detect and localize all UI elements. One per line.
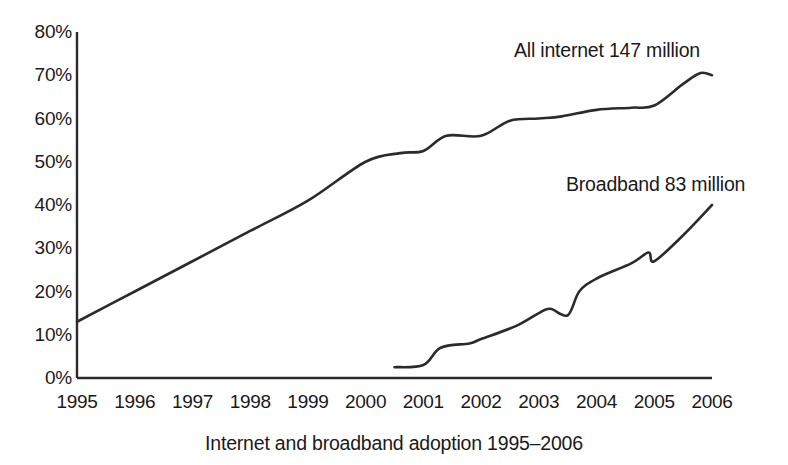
x-tick-label: 2003	[518, 392, 559, 412]
x-tick-label: 1998	[230, 392, 271, 412]
y-tick-label: 10%	[10, 325, 72, 344]
series-annotation-all-internet: All internet 147 million	[514, 40, 700, 61]
y-tick-label: 0%	[10, 368, 72, 387]
y-tick-label: 40%	[10, 195, 72, 214]
y-tick-label: 80%	[10, 22, 72, 41]
x-tick-label: 1996	[114, 392, 155, 412]
x-tick-label: 2004	[576, 392, 617, 412]
x-tick-label: 1997	[172, 392, 213, 412]
x-tick-label: 2005	[634, 392, 675, 412]
series-line-broadband	[395, 205, 713, 367]
x-tick-label: 2006	[691, 392, 732, 412]
x-tick-label: 1999	[287, 392, 328, 412]
x-tick-label: 2001	[403, 392, 444, 412]
y-tick-label: 60%	[10, 109, 72, 128]
y-tick-label: 50%	[10, 152, 72, 171]
chart-caption: Internet and broadband adoption 1995–200…	[0, 432, 788, 454]
y-tick-label: 30%	[10, 238, 72, 257]
x-tick-label: 2002	[461, 392, 502, 412]
series-line-all-internet	[77, 73, 712, 322]
x-tick-label: 1995	[56, 392, 97, 412]
series-annotation-broadband: Broadband 83 million	[566, 174, 745, 195]
chart-container: 80%70%60%50%40%30%20%10%0% 1995199619971…	[0, 0, 788, 465]
y-tick-label: 20%	[10, 282, 72, 301]
x-tick-label: 2000	[345, 392, 386, 412]
y-tick-label: 70%	[10, 65, 72, 84]
